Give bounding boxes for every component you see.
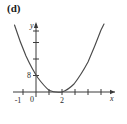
parabola-curve xyxy=(15,24,105,92)
y-tick-label-eight: 8 xyxy=(27,71,31,80)
figure-panel-d: (d) xyxy=(0,0,127,124)
x-tick-label-neg-one: -1 xyxy=(15,96,22,105)
x-tick-label-two: 2 xyxy=(60,96,64,105)
x-axis-label: x xyxy=(109,94,114,103)
x-axis xyxy=(13,90,115,94)
parabola-plot: x y -1 0 2 8 xyxy=(0,0,127,124)
origin-label: 0 xyxy=(30,95,34,104)
y-axis-label: y xyxy=(29,21,34,30)
